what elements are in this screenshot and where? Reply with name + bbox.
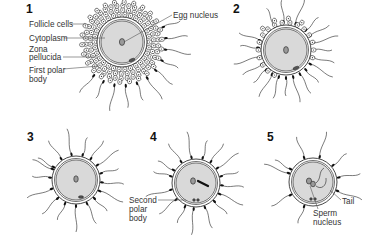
- label: First polar: [29, 66, 66, 75]
- follicle-cell-nucleus: [99, 25, 100, 26]
- sperm-tail: [220, 194, 244, 205]
- stage-3: 3: [27, 129, 124, 232]
- follicle-cell-nucleus: [153, 66, 154, 67]
- sperm: [298, 204, 306, 223]
- sperm-tail: [243, 64, 262, 75]
- follicle-cell-nucleus: [133, 76, 134, 77]
- sperm: [192, 207, 195, 235]
- follicle-cell-nucleus: [90, 50, 91, 51]
- follicle-cell-nucleus: [98, 70, 99, 71]
- sperm: [217, 192, 243, 205]
- follicle-cell-nucleus: [144, 18, 145, 19]
- follicle-cell-nucleus: [259, 57, 260, 58]
- follicle-cell-nucleus: [144, 13, 145, 14]
- follicle-cell-nucleus: [100, 12, 101, 13]
- label: body: [29, 75, 48, 84]
- sperm-tail: [57, 204, 65, 220]
- sperm-head: [308, 62, 313, 66]
- egg: [261, 25, 311, 75]
- follicle-cell-nucleus: [115, 73, 116, 74]
- sperm-tail: [297, 137, 305, 158]
- sperm-tail: [339, 174, 361, 178]
- follicle-cell-nucleus: [105, 14, 106, 15]
- sperm: [158, 161, 176, 172]
- follicle-cell-nucleus: [267, 70, 268, 71]
- follicle-cell-nucleus: [301, 22, 302, 23]
- sperm-tail: [162, 61, 178, 69]
- sperm-tail: [240, 45, 258, 48]
- sperm-tail: [101, 169, 118, 174]
- follicle-cell-nucleus: [274, 20, 275, 21]
- stage-number: 1: [26, 2, 33, 16]
- sperm: [100, 181, 124, 184]
- sperm: [135, 81, 143, 100]
- sperm: [264, 164, 291, 175]
- follicle-cell-nucleus: [97, 10, 98, 11]
- sperm-tail: [83, 138, 88, 155]
- label: pellucida: [29, 53, 62, 62]
- follicle-cell-nucleus: [150, 13, 151, 14]
- follicle-cell-nucleus: [138, 74, 139, 75]
- follicle-cell-nucleus: [130, 68, 131, 69]
- follicle-cell-nucleus: [132, 72, 133, 73]
- follicle-cell-nucleus: [147, 30, 148, 31]
- label: Follicle cells: [29, 20, 73, 29]
- follicle-cell-nucleus: [152, 62, 153, 63]
- sperm-head: [192, 207, 195, 211]
- follicle-cell-nucleus: [142, 7, 143, 8]
- sperm-tail: [163, 21, 180, 27]
- follicle-cell-nucleus: [108, 18, 109, 19]
- follicle-cell-nucleus: [116, 5, 117, 6]
- label: polar: [129, 205, 147, 214]
- sperm: [33, 160, 55, 171]
- follicle-cell-nucleus: [135, 18, 136, 19]
- sperm: [81, 138, 87, 158]
- follicle-cell-nucleus: [124, 1, 125, 2]
- follicle-cell-nucleus: [108, 65, 109, 66]
- sperm-tail: [80, 76, 94, 93]
- first-polar-body: [197, 199, 200, 202]
- follicle-cell-nucleus: [148, 67, 149, 68]
- follicle-cell-nucleus: [119, 81, 120, 82]
- labels: Secondpolarbody: [129, 196, 186, 223]
- follicle-cell-nucleus: [82, 34, 83, 35]
- follicle-cell-nucleus: [144, 58, 145, 59]
- follicle-cell-nucleus: [150, 56, 151, 57]
- sperm-tail: [154, 172, 171, 177]
- stage-5: 5 TailSpermnucleus: [264, 130, 362, 227]
- follicle-cell-nucleus: [101, 76, 102, 77]
- follicle-cell-nucleus: [152, 33, 153, 34]
- egg: [97, 17, 147, 67]
- sperm-tail: [310, 64, 333, 77]
- follicle-cell-nucleus: [85, 25, 86, 26]
- sperm: [292, 75, 300, 102]
- sperm: [336, 174, 360, 179]
- follicle-cell-nucleus: [149, 17, 150, 18]
- follicle-cell-nucleus: [297, 24, 298, 25]
- label: Second: [129, 196, 157, 205]
- sperm-head: [125, 84, 128, 88]
- follicle-cell-nucleus: [91, 32, 92, 33]
- cytoplasm: [176, 163, 216, 203]
- sperm-tail: [285, 78, 287, 96]
- follicle-cell-nucleus: [119, 14, 120, 15]
- follicle-cell-nucleus: [262, 28, 263, 29]
- follicle-cell-nucleus: [147, 53, 148, 54]
- second-polar-body: [310, 198, 313, 201]
- follicle-cell-nucleus: [95, 47, 96, 48]
- follicle-cell-nucleus: [161, 48, 162, 49]
- sperm: [212, 199, 227, 214]
- follicle-cell-nucleus: [153, 45, 154, 46]
- sperm: [49, 141, 64, 161]
- sperm: [125, 84, 129, 108]
- sperm-tail: [239, 33, 260, 41]
- follicle-cell-nucleus: [144, 25, 145, 26]
- follicle-cell-nucleus: [262, 64, 263, 65]
- sperm-tail: [298, 206, 304, 223]
- follicle-cell-nucleus: [147, 23, 148, 24]
- follicle-cell-nucleus: [85, 44, 86, 45]
- sperm-tail: [156, 70, 173, 84]
- sperm-tail: [49, 141, 62, 159]
- sperm: [57, 201, 66, 220]
- sperm-tail: [38, 158, 54, 167]
